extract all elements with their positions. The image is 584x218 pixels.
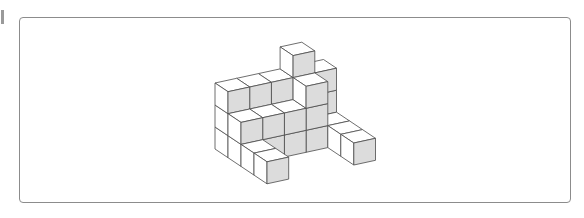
cube-front-face: [263, 113, 285, 140]
cube-front-face: [267, 157, 289, 184]
cube-structure-diagram: [0, 0, 584, 218]
cube-front-face: [306, 82, 328, 109]
cube-front-face: [354, 138, 376, 165]
cube-front-face: [284, 108, 306, 135]
